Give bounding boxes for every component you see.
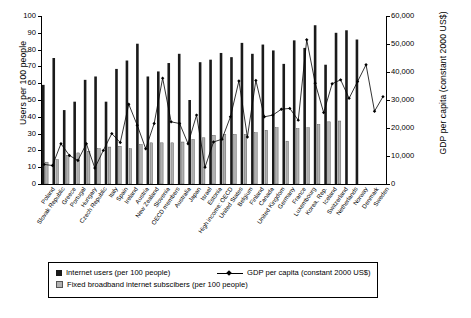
- legend-label-internet-users: Internet users (per 100 people): [66, 268, 170, 277]
- x-axis-labels: PolandSlovak RepublicGreecePortugalHunga…: [41, 186, 387, 248]
- gdp-marker: [373, 110, 376, 113]
- chart-canvas: [41, 16, 386, 184]
- bottom-axis-line: [41, 184, 387, 185]
- bar-internet-users: [199, 62, 202, 184]
- left-tick-label: 10: [8, 163, 36, 171]
- gdp-marker: [254, 79, 257, 82]
- bar-internet-users: [314, 25, 317, 184]
- bar-internet-users: [251, 54, 254, 184]
- left-tick-label: 80: [8, 46, 36, 54]
- bar-broadband: [98, 149, 101, 184]
- left-tick-label: 20: [8, 146, 36, 154]
- left-tick-label: 30: [8, 130, 36, 138]
- bar-broadband: [338, 121, 341, 184]
- right-axis-title: GDP per capita (constant 2000 US$): [438, 0, 448, 171]
- bar-broadband: [255, 133, 258, 184]
- bar-internet-users: [42, 85, 45, 184]
- left-tick-label: 40: [8, 113, 36, 121]
- right-tick-label: 60,000: [391, 12, 427, 20]
- bar-internet-users: [115, 69, 118, 184]
- bar-internet-users: [293, 40, 296, 184]
- bar-internet-users: [73, 102, 76, 184]
- bar-internet-users: [136, 44, 139, 184]
- bar-broadband: [150, 143, 153, 184]
- bar-broadband: [140, 145, 143, 184]
- bar-broadband: [181, 142, 184, 184]
- bar-internet-users: [220, 53, 223, 184]
- left-tick-mark: [38, 184, 41, 185]
- right-tick-label: 40,000: [391, 68, 427, 76]
- right-tick-label: 50,000: [391, 40, 427, 48]
- right-tick-mark: [387, 44, 390, 45]
- gdp-marker: [330, 82, 333, 85]
- bar-internet-users: [157, 71, 160, 184]
- bar-internet-users: [272, 50, 275, 184]
- bar-internet-users: [345, 30, 348, 184]
- bar-internet-users: [241, 43, 244, 184]
- right-tick-mark: [387, 128, 390, 129]
- legend-item-gdp: GDP per capita (constant 2000 US$): [217, 268, 371, 277]
- bar-broadband: [234, 134, 237, 184]
- bar-broadband: [119, 146, 122, 184]
- bar-broadband: [223, 134, 226, 184]
- right-tick-mark: [387, 184, 390, 185]
- gdp-marker: [152, 122, 155, 125]
- bar-internet-users: [230, 57, 233, 184]
- bar-internet-users: [167, 63, 170, 184]
- right-tick-label: 0: [391, 180, 427, 188]
- bar-broadband: [192, 139, 195, 184]
- bar-internet-users: [84, 80, 87, 184]
- gdp-marker: [364, 63, 367, 66]
- bar-broadband: [244, 134, 247, 184]
- gdp-marker: [305, 38, 308, 41]
- legend-label-gdp: GDP per capita (constant 2000 US$): [247, 268, 371, 277]
- gdp-marker: [237, 79, 240, 82]
- right-tick-mark: [387, 100, 390, 101]
- legend-swatch-internet-users: [56, 270, 62, 276]
- bar-broadband: [286, 141, 289, 184]
- bar-internet-users: [209, 60, 212, 184]
- bar-broadband: [161, 143, 164, 184]
- left-tick-label: 50: [8, 96, 36, 104]
- legend-item-internet-users: Internet users (per 100 people): [56, 268, 170, 277]
- bar-broadband: [66, 155, 69, 184]
- left-tick-label: 70: [8, 62, 36, 70]
- bar-broadband: [56, 160, 59, 184]
- gdp-marker: [381, 95, 384, 98]
- bar-internet-users: [335, 33, 338, 184]
- bar-broadband: [317, 124, 320, 184]
- bar-broadband: [276, 128, 279, 184]
- legend-item-broadband: Fixed broadband internet subscibers (per…: [56, 280, 248, 289]
- legend-label-broadband: Fixed broadband internet subscibers (per…: [67, 280, 248, 289]
- bar-broadband: [87, 151, 90, 184]
- right-tick-mark: [387, 16, 390, 17]
- bar-internet-users: [126, 61, 129, 184]
- legend-swatch-broadband: [56, 281, 63, 288]
- right-tick-mark: [387, 156, 390, 157]
- legend-line-gdp: [217, 270, 243, 276]
- left-tick-label: 0: [8, 180, 36, 188]
- bar-internet-users: [324, 65, 327, 184]
- right-tick-label: 10,000: [391, 152, 427, 160]
- bar-internet-users: [282, 64, 285, 184]
- left-tick-label: 60: [8, 79, 36, 87]
- bar-broadband: [171, 143, 174, 184]
- gdp-marker: [339, 78, 342, 81]
- bar-internet-users: [147, 76, 150, 184]
- gdp-marker: [161, 76, 164, 79]
- right-tick-label: 20,000: [391, 124, 427, 132]
- gdp-marker: [102, 149, 105, 152]
- gdp-marker: [195, 113, 198, 116]
- bar-broadband: [265, 130, 268, 184]
- bar-broadband: [328, 122, 331, 184]
- bar-internet-users: [178, 54, 181, 184]
- left-tick-label: 90: [8, 29, 36, 37]
- left-tick-label: 100: [8, 12, 36, 20]
- gdp-marker: [347, 97, 350, 100]
- bar-broadband: [108, 147, 111, 184]
- right-tick-mark: [387, 72, 390, 73]
- bar-internet-users: [356, 40, 359, 184]
- right-tick-label: 30,000: [391, 96, 427, 104]
- plot-area: [41, 16, 386, 184]
- bar-broadband: [307, 128, 310, 184]
